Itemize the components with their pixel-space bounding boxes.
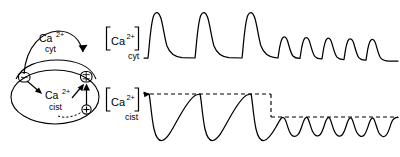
label-ca-cyt-charge: 2+ xyxy=(56,30,64,39)
label-ca-cist-charge: 2+ xyxy=(62,87,70,96)
cyt-label-species: Ca xyxy=(111,35,126,47)
dashed-feedback-arc xyxy=(58,112,83,118)
cist-label-bracket-open xyxy=(107,88,111,111)
label-ca-cyt-species: Ca xyxy=(39,32,53,44)
cell-schematic: Ca 2+ cyt Ca 2+ cist xyxy=(11,30,99,125)
cist-label-bracket-close xyxy=(135,88,139,111)
cyt-trace-label: Ca 2+ cyt xyxy=(107,27,140,61)
cyt-trace-group: Ca 2+ cyt xyxy=(107,13,399,61)
label-ca-cyt-subscript: cyt xyxy=(45,44,57,54)
cytosol-flux-arrowhead xyxy=(79,45,88,52)
cist-trace-group: Ca 2+ cist xyxy=(107,88,399,141)
cyt-waveform xyxy=(144,13,398,61)
channel-symbol-right xyxy=(81,72,93,83)
label-ca-cist-subscript: cist xyxy=(49,102,63,112)
positive-feedback-node xyxy=(82,105,91,114)
label-ca-cist-species: Ca xyxy=(45,89,59,101)
cist-label-charge: 2+ xyxy=(127,93,135,102)
feedback-arrowhead xyxy=(83,83,90,90)
figure-root: Ca 2+ cyt Ca 2+ cist Ca 2+ cyt xyxy=(0,0,400,157)
cyt-label-charge: 2+ xyxy=(127,32,135,41)
figure-canvas: Ca 2+ cyt Ca 2+ cist Ca 2+ cyt xyxy=(0,0,400,157)
cyt-label-bracket-open xyxy=(107,27,111,50)
cyt-label-subscript: cyt xyxy=(128,51,140,61)
cist-trace-label: Ca 2+ cist xyxy=(107,88,139,122)
cyt-label-bracket-close xyxy=(135,27,139,50)
cist-label-species: Ca xyxy=(111,96,126,108)
cist-label-subscript: cist xyxy=(125,112,139,122)
